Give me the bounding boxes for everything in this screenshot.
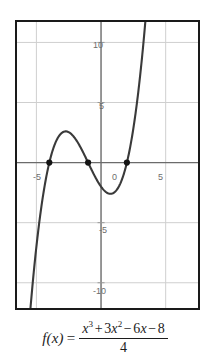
function-name: f(x) xyxy=(42,330,64,347)
figure-container: 10 5 -5 -10 -5 0 5 f(x) = x3+3x2−6x−8 4 xyxy=(0,0,210,362)
denominator: 4 xyxy=(120,339,127,356)
equals-sign: = xyxy=(67,330,75,347)
x-tick-label-5: 5 xyxy=(158,173,163,182)
y-tick-label-10: 10 xyxy=(93,41,103,50)
num-minus-1: − xyxy=(122,321,133,336)
plot-frame: 10 5 -5 -10 -5 0 5 xyxy=(15,20,200,310)
y-tick-label-neg5: -5 xyxy=(99,226,107,235)
root-marker--4 xyxy=(46,159,52,165)
num-minus-2: − xyxy=(147,321,158,336)
x-tick-label-origin: 0 xyxy=(112,173,117,182)
cubic-function-plot xyxy=(17,22,198,308)
equation: f(x) = x3+3x2−6x−8 4 xyxy=(42,322,168,356)
fraction: x3+3x2−6x−8 4 xyxy=(79,321,168,356)
num-const-8: 8 xyxy=(158,321,165,336)
numerator: x3+3x2−6x−8 xyxy=(79,321,168,338)
root-marker-2 xyxy=(124,159,130,165)
y-tick-label-neg10: -10 xyxy=(93,287,106,296)
x-tick-label-neg5: -5 xyxy=(33,173,41,182)
root-marker--1 xyxy=(85,159,91,165)
y-tick-label-5: 5 xyxy=(99,102,104,111)
function-caption: f(x) = x3+3x2−6x−8 4 xyxy=(0,316,210,362)
num-x3: x xyxy=(140,321,146,336)
num-plus: + xyxy=(93,321,104,336)
